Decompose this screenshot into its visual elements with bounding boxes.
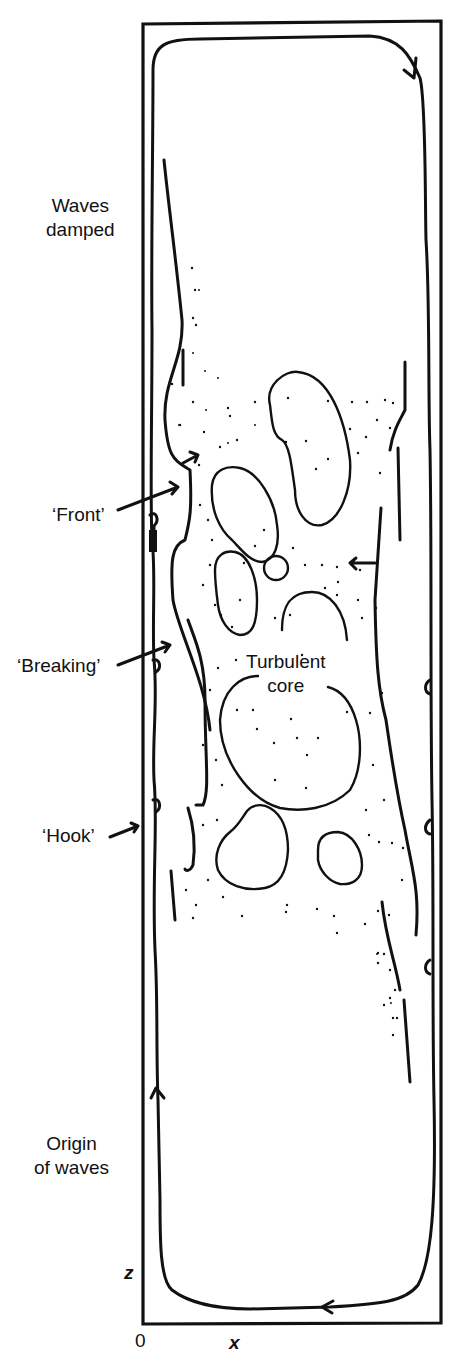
label-line: Turbulent (246, 650, 326, 674)
label-turbulent-core: Turbulent core (246, 650, 326, 698)
core-arrow (350, 558, 375, 569)
right-core-line (375, 508, 417, 935)
wave-hook (426, 820, 431, 834)
label-line: of waves (34, 1156, 109, 1180)
label-front: ‘Front’ (52, 503, 105, 527)
axis-z-label: z (124, 1262, 134, 1284)
right-bottom-line (404, 1000, 410, 1082)
hook-arrow (110, 823, 138, 837)
left-hook-line (185, 808, 194, 870)
label-line: core (246, 674, 326, 698)
eddy-blob (269, 372, 350, 526)
label-line: damped (46, 218, 115, 242)
eddy-blob (212, 467, 278, 562)
label-waves-damped: Waves damped (46, 194, 115, 242)
wave-crest-blob (149, 530, 157, 552)
label-line: Waves (46, 194, 115, 218)
left-small-line (171, 871, 175, 920)
front-upper-arrow (183, 452, 198, 463)
eddy-blob (216, 805, 288, 889)
right-lower-line (382, 902, 400, 990)
label-hook: ‘Hook’ (42, 824, 95, 848)
label-line: Origin (34, 1132, 109, 1156)
eddy-blob (264, 556, 288, 580)
label-breaking: ‘Breaking’ (17, 654, 100, 678)
right-mid-line (398, 448, 400, 540)
axis-x-label: x (229, 1332, 240, 1354)
axis-origin-label: 0 (135, 1330, 146, 1352)
eddy-blob (318, 832, 362, 884)
left-breaking-line (188, 620, 207, 805)
wave-hook (426, 960, 431, 974)
right-upper-line (390, 362, 405, 450)
eddy-blob (215, 552, 257, 635)
eddy-blob (282, 592, 347, 640)
front-arrow (118, 482, 178, 510)
wave-hook (426, 680, 431, 694)
label-origin-of-waves: Origin of waves (34, 1132, 109, 1180)
